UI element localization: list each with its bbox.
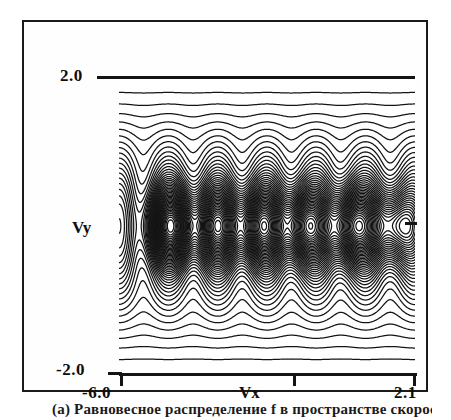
contour-lines [119, 78, 415, 374]
y-axis-max-label: 2.0 [60, 66, 83, 86]
x-axis-title: Vx [239, 383, 260, 403]
y-axis-title: Vy [72, 218, 91, 238]
figure-caption: (a) Равновесное распределение f в простр… [52, 401, 432, 418]
axis-bottom-rule [119, 373, 417, 376]
figure-frame: 2.0 -2.0 Vy -6.0 2.1 Vx [22, 20, 428, 392]
figure-root: 2.0 -2.0 Vy -6.0 2.1 Vx (a) Равновесное … [0, 0, 451, 420]
x-axis-min-label: -6.0 [82, 383, 111, 403]
x-axis-max-label: 2.1 [394, 383, 417, 403]
contour-plot-canvas [119, 78, 415, 374]
tick-y-mid-right [405, 222, 417, 225]
tick-x-mid [293, 373, 296, 386]
axis-top-rule [97, 76, 415, 79]
y-axis-min-label: -2.0 [56, 360, 85, 380]
tick-y-min [108, 372, 122, 375]
